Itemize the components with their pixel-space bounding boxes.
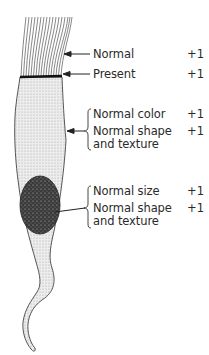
label-nucleus-shape: Normal shape <box>93 202 172 214</box>
brace-nucleus <box>84 186 91 228</box>
label-cilia: Normal <box>93 48 134 60</box>
arrow-plate <box>63 72 70 77</box>
score-terminal-plate: +1 <box>187 68 204 80</box>
label-nucleus-size: Normal size <box>93 185 159 197</box>
terminal-plate <box>20 76 62 77</box>
label-cytoplasm-shape: Normal shape <box>93 125 172 137</box>
label-cytoplasm-texture: and texture <box>93 138 159 150</box>
nucleus <box>20 176 60 234</box>
label-terminal-plate: Present <box>93 68 135 80</box>
label-nucleus-texture: and texture <box>93 215 159 227</box>
score-cilia: +1 <box>187 48 204 60</box>
label-cytoplasm-color: Normal color <box>93 108 165 120</box>
score-nucleus-size: +1 <box>187 185 204 197</box>
score-nucleus-shape: +1 <box>187 202 204 214</box>
score-cytoplasm-color: +1 <box>187 108 204 120</box>
arrow-cytoplasm <box>67 129 74 134</box>
score-cytoplasm-shape: +1 <box>187 125 204 137</box>
cilia <box>21 17 72 76</box>
brace-cytoplasm <box>84 109 91 150</box>
arrow-cilia <box>64 52 71 57</box>
